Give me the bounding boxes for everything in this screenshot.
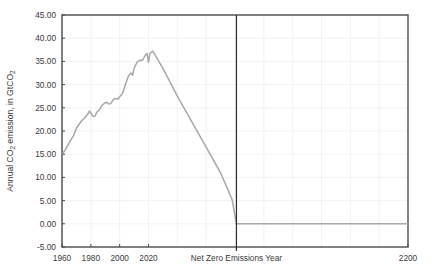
y-axis-tick-label: 35.00 [35,56,56,66]
y-axis-tick-label: 45.00 [35,10,56,20]
co2-emission-line-chart: -5.000.005.0010.0015.0020.0025.0030.0035… [0,0,431,280]
x-axis-tick-label: 1960 [53,253,72,263]
y-axis-title: Annual CO2 emission, in GtCO2 [5,70,16,192]
y-axis-tick-label: 40.00 [35,33,56,43]
x-axis-tick-label: 2000 [110,253,129,263]
y-axis-tick-label: 30.00 [35,80,56,90]
chart-container: -5.000.005.0010.0015.0020.0025.0030.0035… [0,0,431,280]
y-axis-tick-label: -5.00 [37,242,56,252]
x-axis-tick-label: Net Zero Emissions Year [191,253,283,263]
y-axis-tick-label: 15.00 [35,149,56,159]
y-axis-tick-label: 5.00 [40,196,57,206]
x-axis-tick-label: 2020 [139,253,158,263]
y-axis-tick-label: 20.00 [35,126,56,136]
x-axis-tick-label: 2200 [399,253,418,263]
y-axis-tick-label: 25.00 [35,103,56,113]
x-axis-tick-label: 1980 [82,253,101,263]
chart-background [0,0,431,280]
y-axis-tick-label: 0.00 [40,219,57,229]
y-axis-tick-label: 10.00 [35,172,56,182]
